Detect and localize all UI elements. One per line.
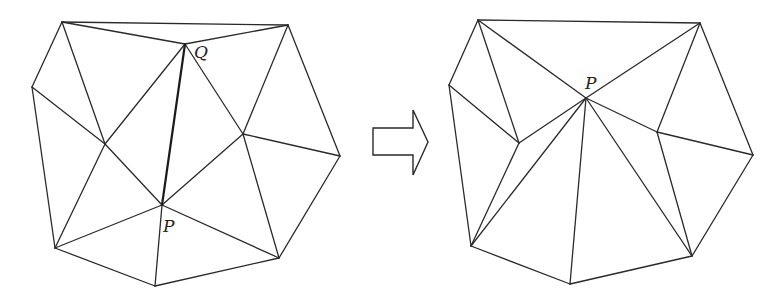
edge-ef xyxy=(657,132,753,155)
edge-dp xyxy=(105,144,162,205)
edge-cd xyxy=(449,85,519,143)
edge-be xyxy=(657,23,700,132)
edge-hi xyxy=(570,256,692,284)
edge-pg xyxy=(471,98,586,246)
label-p-left: P xyxy=(162,216,175,236)
left-triangulation xyxy=(32,22,340,286)
label-q: Q xyxy=(194,42,208,62)
edge-hi xyxy=(155,258,279,286)
right-triangulation xyxy=(449,20,753,284)
edge-fi xyxy=(692,155,753,256)
edge-pi xyxy=(162,205,279,258)
edge-fi xyxy=(279,156,340,258)
edge-aq xyxy=(62,22,185,44)
edge-dp xyxy=(519,98,586,143)
edge-ei xyxy=(657,132,692,256)
edge-gh xyxy=(55,248,155,286)
edge-dg xyxy=(55,144,105,248)
edge-cd xyxy=(32,87,105,144)
edge-ph xyxy=(155,205,162,286)
edge-ac xyxy=(32,22,62,87)
edge-ad xyxy=(62,22,105,144)
edge-ad xyxy=(478,20,519,143)
edge-bf xyxy=(288,25,340,156)
edge-ab xyxy=(62,22,288,25)
edge-pe xyxy=(162,134,243,205)
edge-bf xyxy=(700,23,753,155)
edge-ef xyxy=(243,134,340,156)
edge-pg xyxy=(55,205,162,248)
edge-pi xyxy=(586,98,692,256)
edge-cg xyxy=(32,87,55,248)
edge-ap xyxy=(478,20,586,98)
label-p-right: P xyxy=(584,73,597,93)
edge-gh xyxy=(471,246,570,284)
transform-arrow-icon xyxy=(373,110,428,175)
edge-ab xyxy=(478,20,700,23)
edge-cg xyxy=(449,85,471,246)
edge-be xyxy=(243,25,288,134)
edge-bp xyxy=(586,23,700,98)
edge-ac xyxy=(449,20,478,85)
triangulation-figure: Q P P xyxy=(0,0,781,302)
edge-ph xyxy=(570,98,586,284)
edge-ei xyxy=(243,134,279,258)
